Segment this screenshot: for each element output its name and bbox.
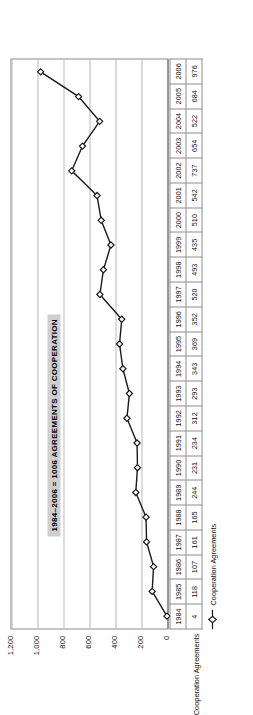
table-row-years: 1984198519861987198819891990199119921993… <box>170 59 186 629</box>
data-point-marker <box>134 464 140 470</box>
data-point-marker <box>143 538 149 544</box>
table-cell-value: 118 <box>186 579 202 604</box>
table-cell-value: 435 <box>186 232 202 257</box>
y-tick-label-600: 600 <box>84 635 93 648</box>
table-cell-year: 2000 <box>170 207 186 232</box>
data-point-marker <box>98 217 104 223</box>
table-cell-year: 1985 <box>170 579 186 604</box>
table-cell-year: 1988 <box>170 505 186 530</box>
table-cell-year: 1984 <box>170 604 186 629</box>
series-line-cooperation-agreements <box>11 59 167 628</box>
data-point-marker <box>37 68 43 74</box>
diamond-line-marker-icon <box>207 609 217 629</box>
table-cell-year: 1991 <box>170 430 186 455</box>
table-cell-value: 654 <box>186 133 202 158</box>
table-cell-value: 737 <box>186 158 202 183</box>
table-cell-year: 1992 <box>170 405 186 430</box>
chart-title: 1984–2006 = 1006 AGREEMENTS OF COOPERATI… <box>47 314 60 536</box>
table-cell-value: 244 <box>186 480 202 505</box>
table-cell-year: 1990 <box>170 455 186 480</box>
table-cell-year: 1997 <box>170 282 186 307</box>
data-point-marker <box>96 291 102 297</box>
data-table: 1984198519861987198819891990199119921993… <box>169 58 202 629</box>
table-cell-year: 2006 <box>170 59 186 84</box>
y-tick-label-1000: 1,000 <box>32 635 41 655</box>
table-cell-year: 1993 <box>170 381 186 406</box>
legend: Cooperation Agreements <box>207 523 217 629</box>
table-cell-year: 2002 <box>170 158 186 183</box>
table-cell-value: 165 <box>186 505 202 530</box>
table-cell-value: 510 <box>186 207 202 232</box>
plot-area: 1984–2006 = 1006 AGREEMENTS OF COOPERATI… <box>10 58 168 629</box>
data-point-marker <box>150 563 156 569</box>
table-cell-value: 234 <box>186 430 202 455</box>
data-point-marker <box>133 439 139 445</box>
data-point-marker <box>142 514 148 520</box>
legend-label-cooperation-agreements: Cooperation Agreements <box>208 523 217 605</box>
data-point-marker <box>100 266 106 272</box>
table-cell-value: 684 <box>186 83 202 108</box>
table-row-header: Cooperation Agreements <box>169 629 201 701</box>
table-cell-year: 2001 <box>170 182 186 207</box>
data-point-marker <box>126 390 132 396</box>
table-cell-year: 1996 <box>170 306 186 331</box>
y-tick-label-200: 200 <box>136 635 145 648</box>
table-cell-value: 976 <box>186 59 202 84</box>
table-cell-value: 293 <box>186 381 202 406</box>
data-point-marker <box>75 93 81 99</box>
table-cell-year: 1989 <box>170 480 186 505</box>
table-cell-value: 4 <box>186 604 202 629</box>
table-cell-value: 522 <box>186 108 202 133</box>
table-cell-year: 1999 <box>170 232 186 257</box>
table-cell-value: 520 <box>186 282 202 307</box>
table-row-header-label: Cooperation Agreements <box>191 633 200 715</box>
table-cell-year: 2005 <box>170 83 186 108</box>
data-point-marker <box>149 588 155 594</box>
table-cell-value: 352 <box>186 306 202 331</box>
table-cell-value: 542 <box>186 182 202 207</box>
data-point-marker <box>132 489 138 495</box>
data-point-marker <box>119 365 125 371</box>
table-cell-year: 1986 <box>170 554 186 579</box>
table-row-values: 4118107161165244231234312293343369352520… <box>186 59 202 629</box>
table-cell-value: 161 <box>186 529 202 554</box>
table-cell-value: 343 <box>186 356 202 381</box>
y-tick-label-400: 400 <box>110 635 119 648</box>
data-point-marker <box>116 340 122 346</box>
y-axis-tick-labels: 02004006008001,0001,200 <box>10 631 168 671</box>
table-cell-value: 312 <box>186 405 202 430</box>
y-tick-label-800: 800 <box>58 635 67 648</box>
table-cell-year: 1995 <box>170 331 186 356</box>
table-cell-year: 2004 <box>170 108 186 133</box>
table-cell-year: 1994 <box>170 356 186 381</box>
data-point-marker <box>107 241 113 247</box>
table-cell-value: 493 <box>186 257 202 282</box>
table-cell-year: 2003 <box>170 133 186 158</box>
y-tick-label-1200: 1,200 <box>6 635 15 655</box>
table-cell-value: 107 <box>186 554 202 579</box>
data-point-marker <box>123 415 129 421</box>
table-cell-value: 369 <box>186 331 202 356</box>
table-cell-year: 1987 <box>170 529 186 554</box>
table-cell-year: 1998 <box>170 257 186 282</box>
table-cell-value: 231 <box>186 455 202 480</box>
